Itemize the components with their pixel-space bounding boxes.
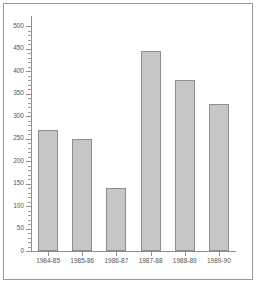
y-axis-minor-tick <box>28 53 32 54</box>
y-axis-tick-label: 250 <box>0 135 24 142</box>
y-axis-minor-tick <box>28 85 32 86</box>
y-axis-minor-tick <box>28 67 32 68</box>
y-axis-tick-label: 300 <box>0 113 24 120</box>
x-axis-tick <box>185 252 186 256</box>
y-axis-tick <box>26 139 32 140</box>
x-axis-tick-label: 1986-87 <box>99 258 133 265</box>
y-axis-minor-tick <box>28 62 32 63</box>
y-axis-tick <box>26 161 32 162</box>
y-axis-minor-tick <box>28 224 32 225</box>
x-axis-tick-label: 1989-90 <box>202 258 236 265</box>
y-axis-minor-tick <box>28 107 32 108</box>
y-axis-minor-tick <box>28 247 32 248</box>
y-axis-minor-tick <box>28 179 32 180</box>
x-axis-tick <box>151 252 152 256</box>
y-axis-tick <box>26 71 32 72</box>
y-axis-tick-label: 500 <box>0 23 24 30</box>
y-axis-minor-tick <box>28 40 32 41</box>
y-axis-minor-tick <box>28 197 32 198</box>
bar <box>38 130 58 252</box>
x-axis-tick <box>219 252 220 256</box>
y-axis-minor-tick <box>28 44 32 45</box>
y-axis-minor-tick <box>28 103 32 104</box>
x-axis-tick-label: 1984-85 <box>31 258 65 265</box>
y-axis-minor-tick <box>28 143 32 144</box>
x-axis-tick <box>82 252 83 256</box>
x-axis-tick-label: 1985-86 <box>65 258 99 265</box>
y-axis-minor-tick <box>28 130 32 131</box>
y-axis-tick <box>26 206 32 207</box>
y-axis-tick-label: 400 <box>0 68 24 75</box>
y-axis-minor-tick <box>28 211 32 212</box>
y-axis-tick-label: 200 <box>0 158 24 165</box>
y-axis-tick <box>26 116 32 117</box>
y-axis-minor-tick <box>28 152 32 153</box>
y-axis-tick <box>26 49 32 50</box>
bar <box>175 80 195 251</box>
y-axis-minor-tick <box>28 58 32 59</box>
y-axis-minor-tick <box>28 193 32 194</box>
y-axis-tick-label: 50 <box>0 225 24 232</box>
y-axis-tick <box>26 94 32 95</box>
y-axis-minor-tick <box>28 80 32 81</box>
x-axis-tick <box>48 252 49 256</box>
y-axis-minor-tick <box>28 188 32 189</box>
x-axis-tick <box>116 252 117 256</box>
y-axis-minor-tick <box>28 125 32 126</box>
y-axis-tick-label: 150 <box>0 180 24 187</box>
bar-chart-figure: 050100150200250300350400450500 1984-8519… <box>0 0 257 284</box>
x-axis-tick-label: 1987-88 <box>134 258 168 265</box>
y-axis-minor-tick <box>28 157 32 158</box>
y-axis-minor-tick <box>28 76 32 77</box>
y-axis-tick-label: 100 <box>0 203 24 210</box>
y-axis-tick <box>26 184 32 185</box>
y-axis-minor-tick <box>28 170 32 171</box>
y-axis-minor-tick <box>28 98 32 99</box>
bar <box>106 188 126 251</box>
y-axis-tick-label: 350 <box>0 90 24 97</box>
x-axis-line <box>31 251 236 252</box>
y-axis-minor-tick <box>28 89 32 90</box>
y-axis-minor-tick <box>28 121 32 122</box>
y-axis-tick <box>26 26 32 27</box>
y-axis-minor-tick <box>28 112 32 113</box>
y-axis-minor-tick <box>28 175 32 176</box>
y-axis-minor-tick <box>28 238 32 239</box>
y-axis-tick-label: 450 <box>0 45 24 52</box>
y-axis-minor-tick <box>28 233 32 234</box>
y-axis-minor-tick <box>28 31 32 32</box>
y-axis-minor-tick <box>28 166 32 167</box>
bar <box>72 139 92 252</box>
y-axis-minor-tick <box>28 148 32 149</box>
y-axis-minor-tick <box>28 220 32 221</box>
y-axis-minor-tick <box>28 35 32 36</box>
bar <box>209 104 229 251</box>
y-axis-tick <box>26 229 32 230</box>
y-axis-minor-tick <box>28 242 32 243</box>
y-axis-tick-label: 0 <box>0 248 24 255</box>
y-axis-minor-tick <box>28 202 32 203</box>
x-axis-tick-label: 1988-89 <box>168 258 202 265</box>
y-axis-minor-tick <box>28 215 32 216</box>
bar <box>141 51 161 251</box>
y-axis-minor-tick <box>28 134 32 135</box>
y-axis-tick <box>26 251 32 252</box>
